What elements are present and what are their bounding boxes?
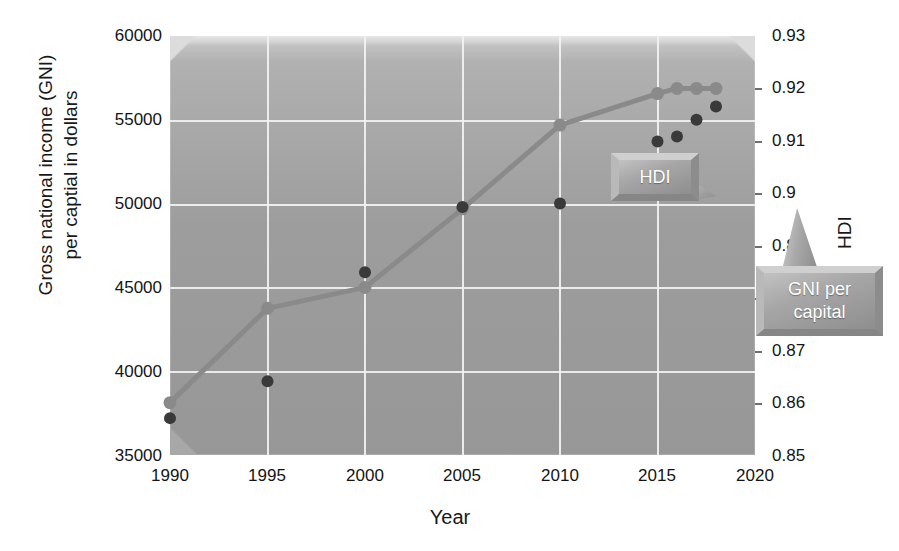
- x-axis-tick-2000: 2000: [335, 466, 395, 486]
- x-axis-title: Year: [330, 505, 570, 530]
- y-axis-right-tick-0.86: 0.86: [772, 393, 832, 413]
- gni-data-point: [457, 201, 469, 213]
- x-axis-tick-2005: 2005: [432, 466, 492, 486]
- gni-data-point: [691, 114, 703, 126]
- y-axis-right-tick-0.9: 0.9: [772, 183, 832, 203]
- y-axis-left-tick-50000: 50000: [92, 194, 162, 214]
- hdi-marker-group: [164, 82, 723, 409]
- gni-callout-label: GNI per capital: [756, 266, 883, 336]
- x-axis-tick-2010: 2010: [530, 466, 590, 486]
- hdi-data-point: [164, 396, 177, 409]
- gni-data-point: [262, 375, 274, 387]
- gni-data-point: [164, 412, 176, 424]
- y-axis-right-tick-0.87: 0.87: [772, 341, 832, 361]
- y-axis-left-tick-35000: 35000: [92, 446, 162, 466]
- plot-area: HDI GNI per capital: [170, 36, 755, 455]
- x-axis-tick-2015: 2015: [627, 466, 687, 486]
- x-axis-tick-1990: 1990: [140, 466, 200, 486]
- gni-data-point: [671, 131, 683, 143]
- gni-marker-group: [164, 100, 722, 424]
- hdi-data-point: [261, 302, 274, 315]
- hdi-line: [170, 88, 716, 402]
- data-series-layer: [170, 36, 755, 455]
- y-axis-left-tick-45000: 45000: [92, 278, 162, 298]
- tickmark-right-0.91: [755, 141, 762, 143]
- chart-figure: Gross national income (GNI) per captial …: [0, 0, 899, 551]
- gni-data-point: [554, 198, 566, 210]
- y-axis-right-tick-0.93: 0.93: [772, 26, 832, 46]
- hdi-data-point: [710, 82, 723, 95]
- y-axis-left-title: Gross national income (GNI) per captial …: [33, 35, 83, 315]
- hdi-data-point: [554, 119, 567, 132]
- hdi-data-point: [671, 82, 684, 95]
- y-axis-right-tick-0.85: 0.85: [772, 446, 832, 466]
- tickmark-right-0.87: [755, 351, 762, 353]
- hdi-data-point: [359, 281, 372, 294]
- gni-callout-line2: capital: [788, 301, 851, 324]
- hdi-data-point: [690, 82, 703, 95]
- y-axis-right-tick-0.91: 0.91: [772, 131, 832, 151]
- x-axis-tick-1995: 1995: [237, 466, 297, 486]
- x-axis-tick-2020: 2020: [725, 466, 785, 486]
- gni-data-point: [652, 136, 664, 148]
- hdi-callout-label: HDI: [611, 153, 699, 201]
- tickmark-right-0.89: [755, 246, 762, 248]
- tickmark-right-0.92: [755, 88, 762, 90]
- y-axis-left-tick-40000: 40000: [92, 362, 162, 382]
- y-axis-right-tick-0.92: 0.92: [772, 78, 832, 98]
- tickmark-right-0.86: [755, 403, 762, 405]
- gni-data-point: [359, 266, 371, 278]
- tickmark-right-0.9: [755, 193, 762, 195]
- hdi-data-point: [651, 87, 664, 100]
- y-axis-left-tick-55000: 55000: [92, 110, 162, 130]
- gni-data-point: [710, 100, 722, 112]
- y-axis-left-tick-60000: 60000: [92, 26, 162, 46]
- gni-callout-line1: GNI per: [788, 278, 851, 301]
